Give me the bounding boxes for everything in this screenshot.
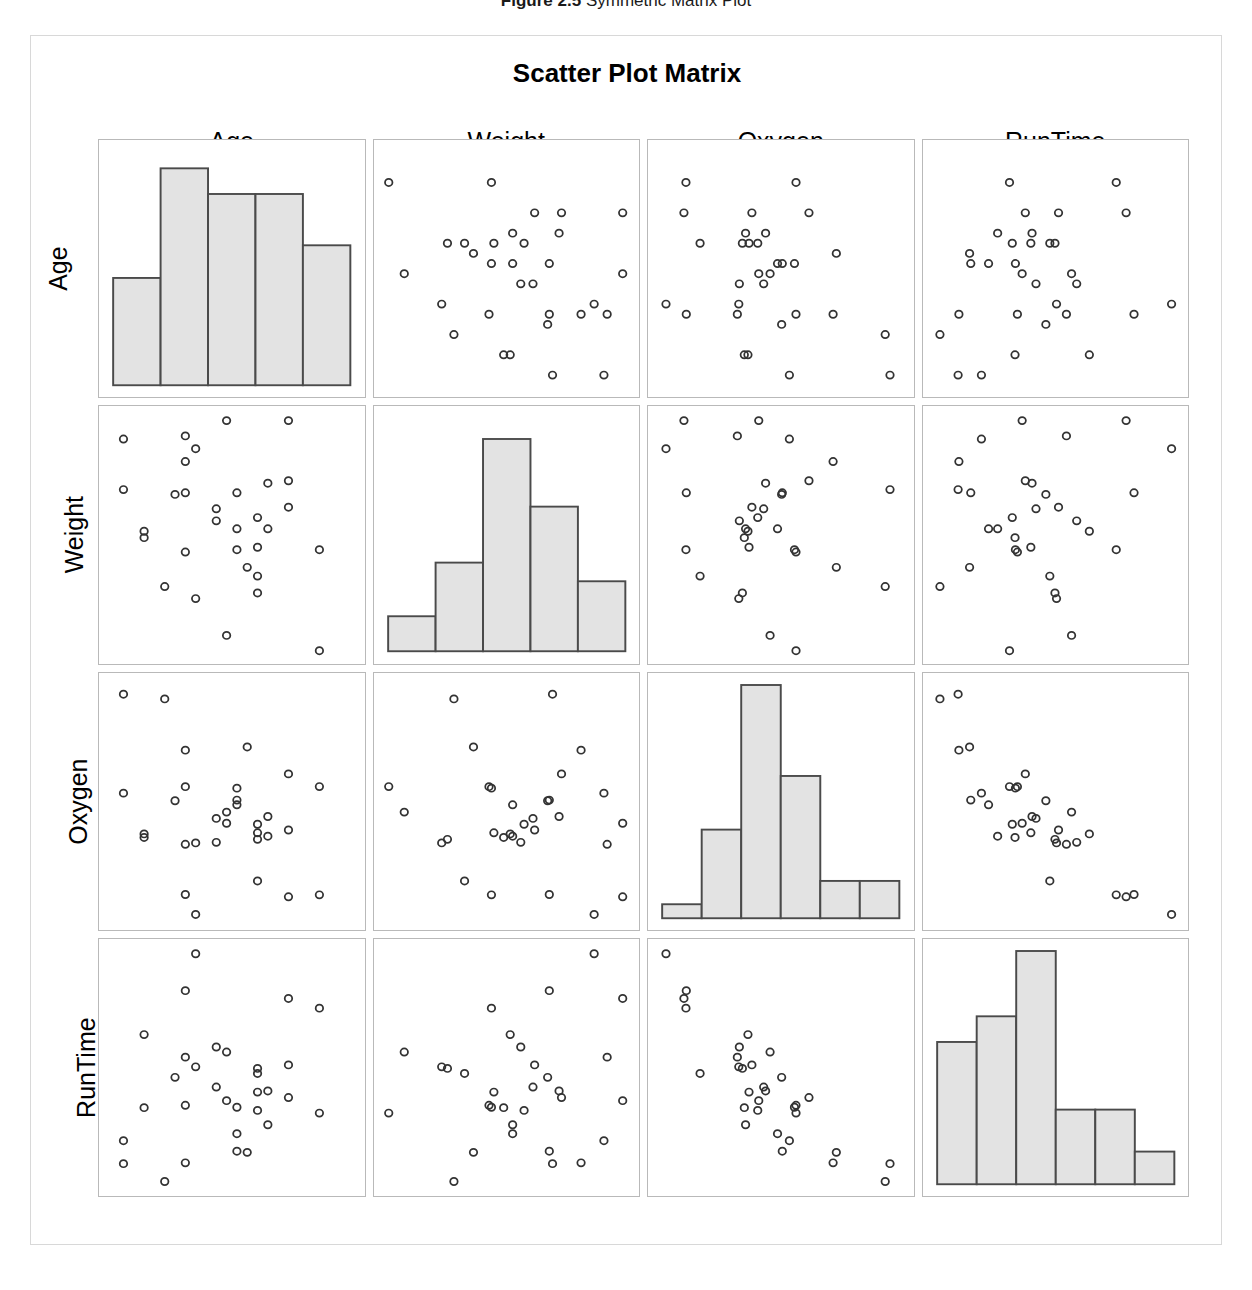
data-point [1130, 489, 1137, 496]
data-point [760, 505, 767, 512]
histogram-bar [303, 245, 350, 385]
data-point [603, 311, 610, 318]
data-point [881, 583, 888, 590]
data-point [735, 301, 742, 308]
data-point [543, 321, 550, 328]
data-point [285, 770, 292, 777]
scatter-svg [648, 406, 914, 663]
histogram-bar [208, 194, 255, 385]
data-point [182, 458, 189, 465]
histogram-bar [577, 582, 624, 652]
scatter-svg [923, 406, 1189, 663]
data-point [600, 789, 607, 796]
data-point [233, 525, 240, 532]
data-point [833, 1149, 840, 1156]
data-point [529, 814, 536, 821]
data-point [1011, 351, 1018, 358]
data-point [682, 1004, 689, 1011]
data-point [662, 950, 669, 957]
data-point [254, 1107, 261, 1114]
scatter-panel-age-vs-weight[interactable] [373, 139, 641, 398]
data-point [254, 820, 261, 827]
data-point [967, 489, 974, 496]
data-point [140, 1031, 147, 1038]
data-point [682, 546, 689, 553]
data-point [120, 690, 127, 697]
data-point [618, 1097, 625, 1104]
scatter-panel-age-vs-runtime[interactable] [922, 139, 1190, 398]
data-point [1028, 230, 1035, 237]
data-point [1027, 829, 1034, 836]
data-point [1085, 528, 1092, 535]
data-point [385, 783, 392, 790]
data-point [450, 695, 457, 702]
data-point [285, 477, 292, 484]
data-point [1067, 808, 1074, 815]
data-point [385, 1109, 392, 1116]
data-point [886, 1160, 893, 1167]
scatter-panel-weight-vs-oxygen[interactable] [647, 405, 915, 664]
scatter-panel-oxygen-vs-runtime[interactable] [922, 672, 1190, 931]
data-point [736, 1043, 743, 1050]
histogram-panel-weight[interactable] [373, 405, 641, 664]
scatter-panel-weight-vs-age[interactable] [98, 405, 366, 664]
scatter-panel-age-vs-oxygen[interactable] [647, 139, 915, 398]
data-point [545, 260, 552, 267]
data-point [223, 819, 230, 826]
data-point [993, 832, 1000, 839]
data-point [182, 433, 189, 440]
data-point [508, 1121, 515, 1128]
data-point [254, 877, 261, 884]
scatter-panel-runtime-vs-weight[interactable] [373, 938, 641, 1197]
data-point [734, 311, 741, 318]
scatter-panel-runtime-vs-oxygen[interactable] [647, 938, 915, 1197]
scatter-panel-weight-vs-runtime[interactable] [922, 405, 1190, 664]
data-point [805, 477, 812, 484]
histogram-bar [255, 194, 302, 385]
data-point [517, 838, 524, 845]
histogram-panel-runtime[interactable] [922, 938, 1190, 1197]
data-point [529, 280, 536, 287]
data-point [955, 458, 962, 465]
scatter-panel-oxygen-vs-weight[interactable] [373, 672, 641, 931]
data-point [936, 583, 943, 590]
data-point [590, 950, 597, 957]
scatter-svg [99, 939, 365, 1196]
histogram-panel-oxygen[interactable] [647, 672, 915, 931]
histogram-bar [113, 278, 160, 385]
figure-caption: Figure 2.5 Symmetric Matrix Plot [0, 0, 1252, 11]
data-point [264, 1121, 271, 1128]
data-point [833, 564, 840, 571]
data-point [739, 590, 746, 597]
data-point [680, 417, 687, 424]
data-point [680, 995, 687, 1002]
data-point [993, 525, 1000, 532]
data-point [543, 1073, 550, 1080]
data-point [487, 179, 494, 186]
data-point [244, 743, 251, 750]
histogram-panel-age[interactable] [98, 139, 366, 398]
scatter-panel-oxygen-vs-age[interactable] [98, 672, 366, 931]
histogram-bar [662, 904, 702, 918]
data-point [955, 746, 962, 753]
data-point [577, 746, 584, 753]
histogram-svg [99, 140, 365, 397]
data-point [557, 209, 564, 216]
histogram-bar [483, 439, 530, 651]
scatter-panel-runtime-vs-age[interactable] [98, 938, 366, 1197]
data-point [385, 179, 392, 186]
data-point [1167, 910, 1174, 917]
data-point [223, 417, 230, 424]
row-label-age: Age [36, 139, 70, 398]
data-point [886, 371, 893, 378]
histogram-bar [161, 168, 208, 385]
data-point [1032, 505, 1039, 512]
row-label-oxygen: Oxygen [36, 672, 70, 931]
data-point [1072, 280, 1079, 287]
histogram-bar [1055, 1109, 1095, 1184]
data-point [171, 797, 178, 804]
data-point [754, 1107, 761, 1114]
data-point [460, 1070, 467, 1077]
data-point [555, 1087, 562, 1094]
data-point [499, 1104, 506, 1111]
